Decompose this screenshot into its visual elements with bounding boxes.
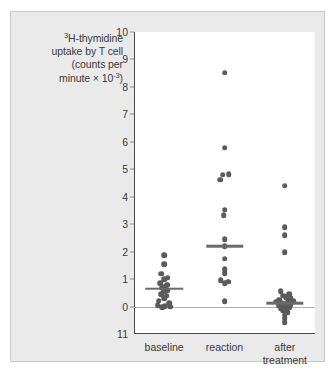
scatter-point <box>222 299 228 305</box>
y-tick-label: 3 <box>122 218 128 230</box>
y-axis-title-line-3: (counts per <box>72 58 123 70</box>
y-tick-mark <box>130 59 134 60</box>
y-tick-label: 9 <box>122 53 128 65</box>
scatter-point <box>161 252 167 258</box>
scatter-point <box>282 320 288 326</box>
y-axis-title-line-1: H-thymidine <box>68 32 123 44</box>
y-axis-title: 3H-thymidine uptake by T cell (counts pe… <box>19 32 123 85</box>
y-tick-mark <box>130 86 134 87</box>
y-tick-label: 10 <box>116 26 128 38</box>
median-bar <box>206 245 243 248</box>
y-tick-mark <box>130 251 134 252</box>
y-axis-title-line-2: uptake by T cell <box>51 45 123 57</box>
scatter-point <box>160 304 166 310</box>
y-tick-label: 7 <box>122 108 128 120</box>
plot-frame: 10987654321011 baselinereactionafter tre… <box>134 32 315 334</box>
scatter-point <box>222 270 228 276</box>
scatter-point <box>161 261 167 267</box>
y-tick-mark <box>130 114 134 115</box>
x-category-label: after treatment <box>263 341 307 366</box>
scatter-point <box>222 145 228 151</box>
median-bar <box>266 302 303 305</box>
scatter-point <box>282 249 288 255</box>
scatter-point <box>167 304 173 310</box>
x-category-label: baseline <box>145 341 184 354</box>
figure-panel: 3H-thymidine uptake by T cell (counts pe… <box>10 11 325 362</box>
scatter-point <box>221 213 227 219</box>
scatter-point <box>222 236 228 242</box>
median-bar <box>145 287 182 290</box>
y-tick-mark <box>130 196 134 197</box>
scatter-point <box>222 280 228 286</box>
x-category-label: reaction <box>206 341 243 354</box>
scatter-point <box>222 70 228 76</box>
y-tick-label: 0 <box>122 301 128 313</box>
y-tick-label: 5 <box>122 163 128 175</box>
y-tick-mark <box>130 141 134 142</box>
scatter-point <box>282 183 288 189</box>
y-axis-title-line-4: minute × 10 <box>59 72 113 84</box>
y-tick-mark <box>130 224 134 225</box>
y-tick-mark <box>130 279 134 280</box>
y-tick-label: 8 <box>122 81 128 93</box>
y-tick-mark <box>130 169 134 170</box>
scatter-point <box>226 171 232 177</box>
y-tick-label: 4 <box>122 191 128 203</box>
y-tick-label: 1 <box>122 273 128 285</box>
scatter-point <box>222 256 228 262</box>
y-axis-bottom-label: 11 <box>117 328 128 340</box>
scatter-point <box>217 177 223 183</box>
scatter-point <box>282 225 288 231</box>
y-tick-mark <box>130 32 134 33</box>
scatter-point <box>282 232 288 238</box>
y-tick-label: 6 <box>122 136 128 148</box>
y-tick-label: 2 <box>122 246 128 258</box>
